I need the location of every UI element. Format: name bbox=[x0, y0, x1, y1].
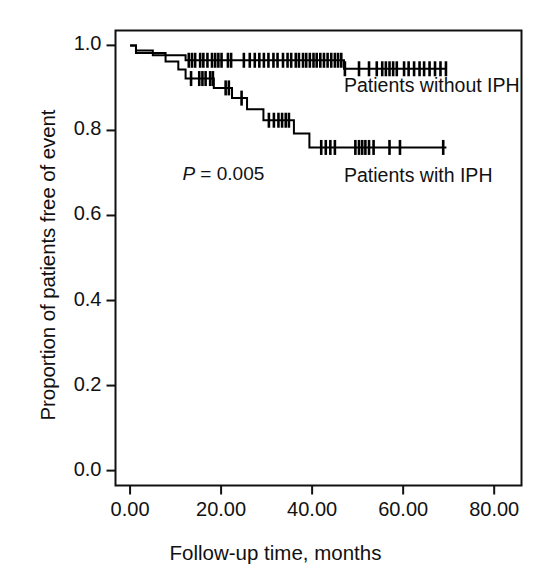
series-label-with-iph: Patients with IPH bbox=[344, 164, 492, 187]
y-axis-label: Proportion of patients free of event bbox=[36, 35, 60, 495]
x-tick-label-4: 80.00 bbox=[449, 498, 539, 521]
y-tick-label-3: 0.6 bbox=[36, 202, 102, 225]
y-tick-label-2: 0.4 bbox=[36, 288, 102, 311]
y-tick-label-1: 0.2 bbox=[36, 373, 102, 396]
p-symbol: P bbox=[182, 163, 195, 184]
kaplan-meier-figure: Proportion of patients free of event Fol… bbox=[0, 0, 551, 580]
series-label-without-iph: Patients without IPH bbox=[344, 74, 520, 97]
x-tick-label-3: 60.00 bbox=[358, 498, 448, 521]
x-tick-label-0: 0.00 bbox=[85, 498, 175, 521]
p-value-text: = 0.005 bbox=[195, 163, 264, 184]
y-tick-label-0: 0.0 bbox=[36, 458, 102, 481]
p-value-annotation: P = 0.005 bbox=[182, 163, 264, 185]
plot-frame bbox=[116, 31, 522, 486]
x-tick-label-1: 20.00 bbox=[176, 498, 266, 521]
x-axis-label: Follow-up time, months bbox=[0, 541, 551, 565]
y-tick-label-5: 1.0 bbox=[36, 32, 102, 55]
y-tick-label-4: 0.8 bbox=[36, 117, 102, 140]
x-tick-label-2: 40.00 bbox=[267, 498, 357, 521]
